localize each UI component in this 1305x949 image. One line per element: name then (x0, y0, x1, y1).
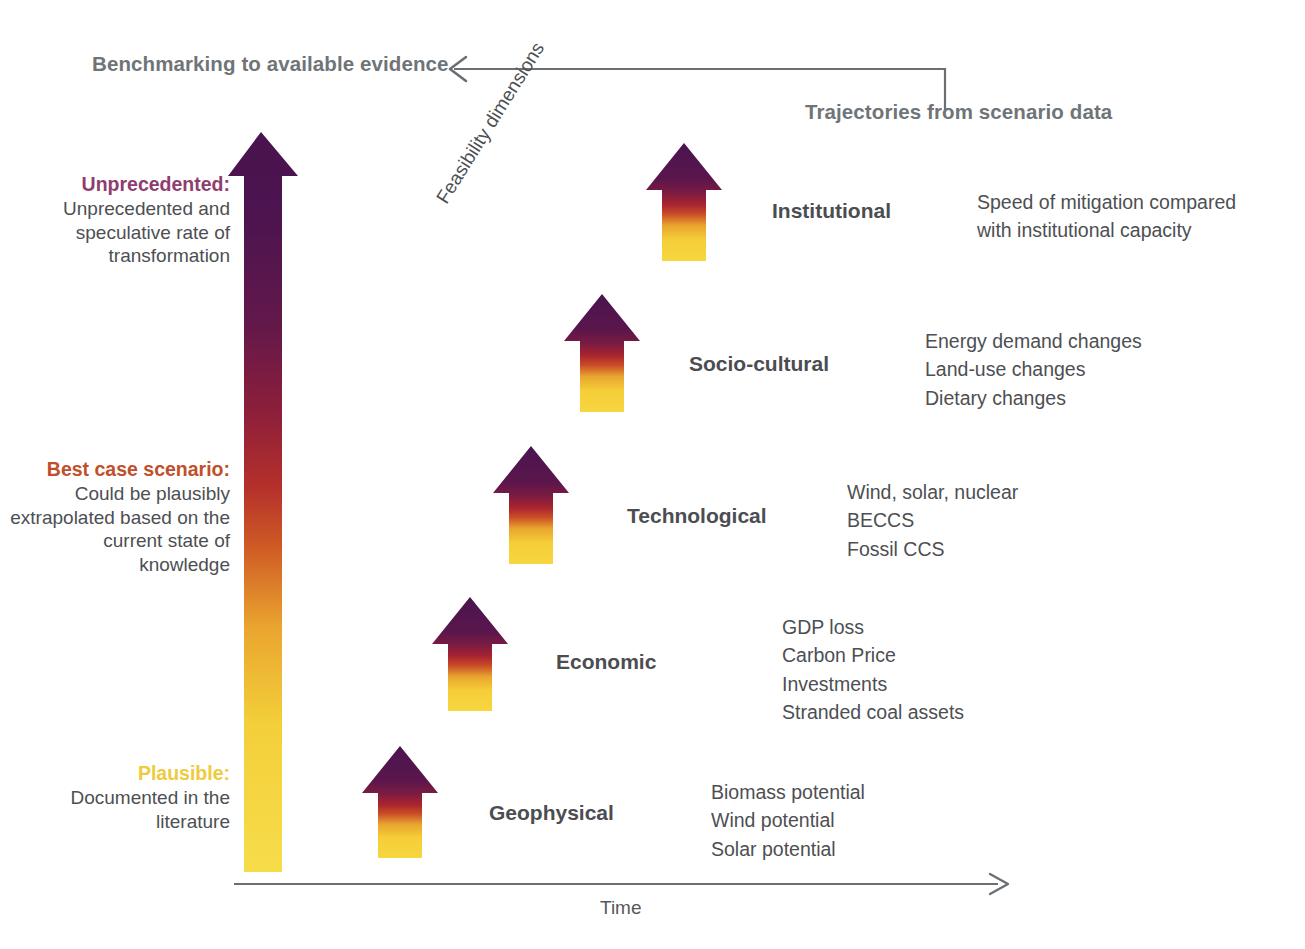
dimension-label-socio-cultural: Socio-cultural (689, 352, 829, 376)
scale-level-unprecedented: Unprecedented: Unprecedented and specula… (10, 172, 230, 268)
scale-title-plausible: Plausible: (10, 761, 230, 785)
dimension-item: Speed of mitigation compared (977, 188, 1236, 216)
scale-body-unprecedented: Unprecedented and speculative rate of tr… (10, 197, 230, 268)
scale-level-plausible: Plausible: Documented in the literature (10, 761, 230, 833)
dimension-item: Fossil CCS (847, 535, 1018, 563)
feasibility-scale-arrow (224, 132, 304, 872)
benchmarking-label: Benchmarking to available evidence (92, 52, 449, 76)
dimension-item: Stranded coal assets (782, 698, 964, 726)
dimension-label-geophysical: Geophysical (489, 801, 614, 825)
dimension-items-geophysical: Biomass potential Wind potential Solar p… (711, 778, 865, 863)
dimension-items-technological: Wind, solar, nuclear BECCS Fossil CCS (847, 478, 1018, 563)
arrow-economic (430, 597, 510, 711)
dimension-items-economic: GDP loss Carbon Price Investments Strand… (782, 613, 964, 727)
arrow-socio-cultural (562, 294, 642, 412)
arrow-geophysical (360, 746, 440, 858)
arrow-institutional (644, 143, 724, 261)
dimension-item: Wind, solar, nuclear (847, 478, 1018, 506)
arrow-technological (491, 446, 571, 564)
dimension-item: Energy demand changes (925, 327, 1142, 355)
trajectories-label: Trajectories from scenario data (805, 100, 1112, 124)
dimension-item: Land-use changes (925, 355, 1142, 383)
dimension-item: BECCS (847, 506, 1018, 534)
dimension-item: GDP loss (782, 613, 964, 641)
dimension-item: Dietary changes (925, 384, 1142, 412)
feasibility-dimensions-figure: Benchmarking to available evidence Traje… (0, 0, 1305, 949)
dimension-item: Solar potential (711, 835, 865, 863)
dimension-item: Biomass potential (711, 778, 865, 806)
scale-body-best-case: Could be plausibly extrapolated based on… (10, 482, 230, 576)
time-axis-label: Time (600, 897, 642, 919)
scale-title-unprecedented: Unprecedented: (10, 172, 230, 196)
dimension-item: Investments (782, 670, 964, 698)
scale-body-plausible: Documented in the literature (10, 786, 230, 833)
dimension-label-economic: Economic (556, 650, 656, 674)
dimension-item: Carbon Price (782, 641, 964, 669)
dimension-items-institutional: Speed of mitigation compared with instit… (977, 188, 1236, 245)
scale-title-best-case: Best case scenario: (10, 457, 230, 481)
dimension-item: Wind potential (711, 806, 865, 834)
dimension-label-institutional: Institutional (772, 199, 891, 223)
dimension-item: with institutional capacity (977, 216, 1236, 244)
scale-level-best-case: Best case scenario: Could be plausibly e… (10, 457, 230, 576)
dimension-items-socio-cultural: Energy demand changes Land-use changes D… (925, 327, 1142, 412)
dimension-label-technological: Technological (627, 504, 767, 528)
